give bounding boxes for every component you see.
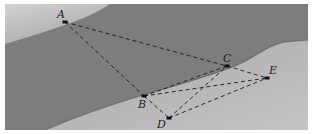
diagram-canvas: ABCDE	[5, 4, 308, 130]
point-c-label: C	[223, 52, 232, 65]
point-d-marker	[167, 117, 172, 120]
river-diagram: ABCDE	[5, 4, 308, 130]
point-e-label: E	[268, 64, 277, 77]
point-d-label: D	[156, 118, 166, 130]
point-b-label: B	[137, 98, 146, 111]
point-a-label: A	[56, 8, 65, 21]
